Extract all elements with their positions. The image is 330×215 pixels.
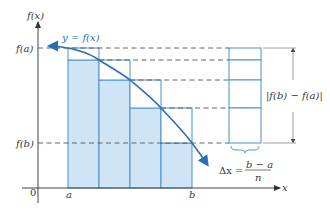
delta-x-denominator: n (255, 172, 261, 183)
delta-x-lhs: Δx = (219, 165, 243, 176)
width-brace (231, 146, 259, 153)
origin-label: 0 (30, 187, 36, 198)
difference-label: |f(b) − f(a)| (266, 90, 323, 102)
delta-x-numerator: b − a (246, 159, 273, 170)
y-axis-label: f(x) (26, 10, 44, 21)
difference-stack (229, 48, 261, 143)
curve-label: y = f(x) (61, 32, 100, 43)
rect-1 (68, 60, 99, 188)
rect-3 (130, 108, 161, 188)
rect-2 (99, 80, 130, 188)
x-axis-label: x (282, 182, 288, 193)
tick-a-label: a (66, 189, 72, 200)
tick-fb-label: f(b) (15, 138, 34, 149)
tick-b-label: b (189, 189, 195, 200)
rect-4 (161, 143, 192, 188)
diagram-canvas: f(x) x 0 a b f(a) f(b) y = f(x) |f(b) − … (0, 0, 330, 215)
rectangles (68, 48, 192, 188)
tick-fa-label: f(a) (15, 43, 34, 54)
